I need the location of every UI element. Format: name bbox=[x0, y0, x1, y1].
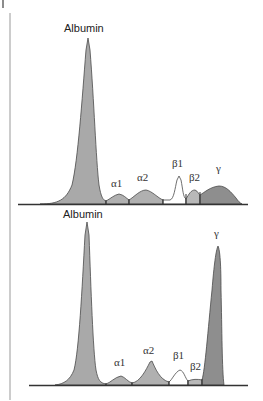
bottom-alpha2-peak bbox=[132, 361, 169, 385]
top-albumin-peak bbox=[40, 38, 106, 204]
top-albumin-label: Albumin bbox=[64, 22, 104, 34]
top-beta1-label: β1 bbox=[172, 157, 183, 169]
top-alpha1-label: α1 bbox=[111, 177, 122, 189]
bottom-gamma-label: γ bbox=[213, 227, 219, 239]
electrophoresis-figure: Albumin α1 α2 β1 β2 γ Albumin α1 α2 β1 β… bbox=[0, 0, 263, 401]
top-gamma-peak bbox=[200, 186, 242, 204]
bottom-beta2-peak bbox=[188, 379, 202, 385]
top-alpha2-peak bbox=[129, 190, 163, 204]
bottom-albumin-peak bbox=[55, 222, 106, 385]
bottom-alpha1-peak bbox=[106, 376, 132, 385]
bottom-beta1-label: β1 bbox=[173, 349, 184, 361]
bottom-beta1-peak bbox=[169, 370, 188, 385]
top-panel-normal: Albumin α1 α2 β1 β2 γ bbox=[18, 22, 248, 205]
top-beta2-peak bbox=[186, 190, 200, 204]
bottom-alpha2-label: α2 bbox=[143, 344, 154, 356]
top-alpha2-label: α2 bbox=[137, 171, 148, 183]
bottom-alpha1-label: α1 bbox=[114, 356, 125, 368]
top-beta1-peak bbox=[163, 176, 186, 204]
top-alpha1-peak bbox=[106, 194, 129, 204]
top-gamma-label: γ bbox=[215, 162, 221, 174]
bottom-beta2-label: β2 bbox=[190, 360, 201, 372]
bottom-gamma-peak bbox=[202, 246, 224, 385]
bottom-albumin-label: Albumin bbox=[63, 208, 103, 220]
bottom-panel-monoclonal: Albumin α1 α2 β1 β2 γ bbox=[29, 208, 248, 386]
top-beta2-label: β2 bbox=[189, 171, 200, 183]
